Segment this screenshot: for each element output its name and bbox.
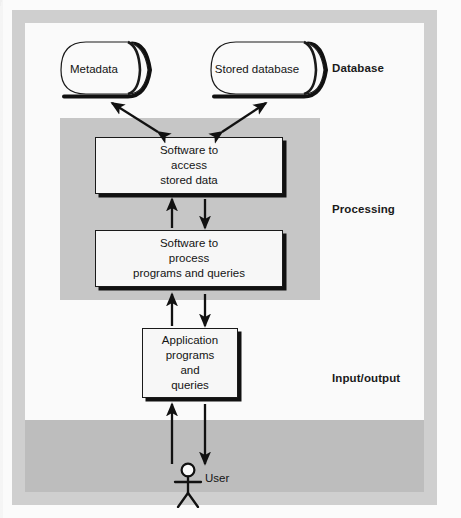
actor-user-label: User xyxy=(205,472,229,484)
diagram-canvas: Database Processing Input/output Metadat… xyxy=(0,0,461,518)
flow-access-to-stored-database xyxy=(222,103,266,132)
flow-access-to-metadata xyxy=(112,103,158,132)
stick-figure-icon xyxy=(168,462,238,508)
flow-arrows xyxy=(0,0,461,518)
